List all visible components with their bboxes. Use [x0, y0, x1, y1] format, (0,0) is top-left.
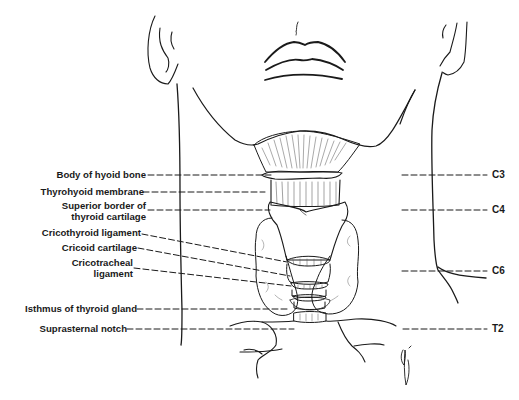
label-superior-border-line2: thyroid cartilage — [71, 211, 146, 222]
artist-signature — [401, 346, 411, 385]
label-cricothyroid-ligament: Cricothyroid ligament — [42, 227, 141, 238]
right-ear-drawing — [440, 22, 467, 75]
level-c6: C6 — [492, 265, 505, 276]
label-cricotracheal-line1: Cricotracheal — [72, 257, 133, 268]
leader-lines — [127, 175, 294, 329]
label-isthmus-of-thyroid-gland: Isthmus of thyroid gland — [25, 303, 137, 314]
anatomy-figure: Body of hyoid bone Thyrohyoid membrane S… — [0, 0, 519, 400]
cricothyroid-ligament — [287, 256, 330, 266]
thyrohyoid-membrane — [271, 180, 340, 207]
clavicle-sternum-outlines — [230, 319, 396, 378]
left-ear-drawing — [148, 16, 178, 84]
mouth-drawing — [265, 22, 345, 80]
label-thyrohyoid-membrane: Thyrohyoid membrane — [41, 186, 144, 197]
label-superior-border-line1: Superior border of — [62, 200, 146, 211]
right-neck-cord — [438, 267, 486, 278]
right-neck-outline — [432, 73, 458, 303]
level-c4: C4 — [492, 204, 505, 215]
thyroid-lobe-texture — [262, 236, 350, 301]
vertebral-level-lines — [402, 175, 487, 329]
left-neck-outline — [177, 84, 182, 345]
label-cricoid-cartilage: Cricoid cartilage — [62, 242, 137, 253]
thyroid-left-lobe — [255, 218, 297, 315]
submental-muscle — [254, 131, 360, 172]
tracheal-ring-hatching — [298, 285, 322, 321]
label-suprasternal-notch: Suprasternal notch — [40, 323, 127, 334]
level-t2: T2 — [492, 323, 504, 334]
thyroid-cartilage — [268, 202, 347, 260]
tracheal-rings — [291, 282, 328, 323]
level-c3: C3 — [492, 169, 505, 180]
label-body-of-hyoid-bone: Body of hyoid bone — [56, 169, 146, 180]
thyroid-right-lobe — [312, 220, 359, 314]
label-cricotracheal-line2: ligament — [94, 268, 133, 279]
